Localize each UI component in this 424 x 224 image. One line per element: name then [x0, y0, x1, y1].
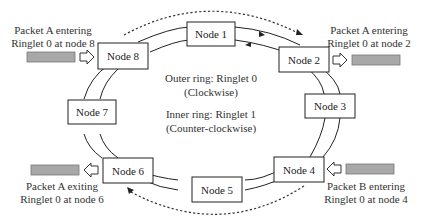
- packet-a-exiting-node-6: Packet A exiting Ringlet 0 at node 6: [20, 163, 104, 205]
- svg-text:Node 4: Node 4: [283, 164, 316, 176]
- packet-a-entering-node-8: Packet A entering Ringlet 0 at node 8: [11, 24, 95, 64]
- packet-icon: [27, 52, 75, 62]
- svg-text:Packet A entering: Packet A entering: [330, 24, 408, 36]
- arrowhead-icon: [127, 187, 134, 194]
- svg-text:Node 2: Node 2: [288, 54, 320, 66]
- svg-text:Ringlet 0 at node 2: Ringlet 0 at node 2: [327, 37, 411, 49]
- node-5[interactable]: Node 5: [192, 177, 242, 202]
- svg-text:Inner ring: Ringlet 1: Inner ring: Ringlet 1: [166, 108, 256, 120]
- svg-text:(Counter-clockwise): (Counter-clockwise): [166, 122, 257, 135]
- svg-text:Node 7: Node 7: [76, 106, 109, 118]
- arrowhead-icon: [296, 29, 303, 35]
- node-2[interactable]: Node 2: [279, 47, 329, 72]
- node-3[interactable]: Node 3: [305, 94, 355, 118]
- svg-text:Node 5: Node 5: [201, 184, 234, 196]
- svg-text:Packet A entering: Packet A entering: [14, 24, 92, 36]
- svg-text:Outer ring: Ringlet 0: Outer ring: Ringlet 0: [165, 72, 257, 84]
- packet-b-entering-node-4: Packet B entering Ringlet 0 at node 4: [324, 162, 408, 205]
- node-4[interactable]: Node 4: [274, 157, 324, 182]
- svg-text:Node 3: Node 3: [314, 100, 347, 112]
- node-8[interactable]: Node 8: [98, 43, 148, 69]
- hollow-right-arrow-icon: [80, 50, 94, 64]
- svg-text:Packet A exiting: Packet A exiting: [26, 180, 99, 192]
- svg-text:Ringlet 0 at node 4: Ringlet 0 at node 4: [324, 193, 408, 205]
- svg-text:Node 6: Node 6: [112, 165, 145, 177]
- svg-text:(Clockwise): (Clockwise): [184, 86, 238, 99]
- ring-legend: Outer ring: Ringlet 0 (Clockwise) Inner …: [165, 72, 257, 135]
- svg-text:Node 8: Node 8: [107, 50, 140, 62]
- svg-text:Ringlet 0 at node 8: Ringlet 0 at node 8: [11, 37, 95, 49]
- node-7[interactable]: Node 7: [68, 100, 116, 124]
- svg-text:Node 1: Node 1: [195, 28, 227, 40]
- packet-icon: [31, 165, 79, 175]
- packet-icon: [346, 164, 394, 174]
- hollow-left-arrow-icon: [327, 162, 341, 176]
- svg-text:Ringlet 0 at node 6: Ringlet 0 at node 6: [20, 193, 104, 205]
- packet-icon: [352, 55, 400, 65]
- node-1[interactable]: Node 1: [187, 22, 235, 46]
- hollow-right-arrow-icon: [333, 53, 347, 67]
- node-6[interactable]: Node 6: [103, 158, 153, 183]
- svg-text:Packet B entering: Packet B entering: [327, 180, 406, 192]
- counter-clockwise-arrowhead-icon: [245, 42, 251, 47]
- ring-diagram: Node 1 Node 2 Node 3 Node 4 Node 5 Node …: [0, 0, 424, 224]
- hollow-left-arrow-icon: [84, 163, 98, 177]
- packet-a-entering-node-2: Packet A entering Ringlet 0 at node 2: [327, 24, 411, 67]
